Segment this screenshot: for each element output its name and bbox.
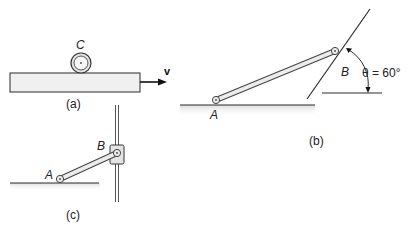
wheel-c: [71, 53, 91, 73]
figure-a: C v (a): [10, 38, 171, 111]
point-b-label: B: [97, 139, 105, 153]
ground-shadow: [10, 183, 100, 191]
caption-a: (a): [66, 97, 81, 111]
velocity-arrow: [140, 79, 167, 86]
angle-label: θ = 60°: [362, 66, 401, 80]
point-a-label: A: [209, 108, 218, 122]
point-b-label: B: [341, 65, 349, 79]
caption-b: (b): [309, 134, 324, 148]
link-ab: [212, 47, 338, 103]
incline-wall: [307, 9, 370, 99]
link-ab: [56, 149, 120, 182]
point-a-label: A: [44, 168, 53, 182]
ground-shadow: [180, 105, 315, 117]
figure-b: B θ = 60° A (b): [180, 9, 401, 148]
caption-c: (c): [66, 208, 80, 222]
velocity-label: v: [164, 65, 171, 77]
sliding-plate: [10, 73, 140, 92]
diagram-canvas: C v (a) B θ: [0, 0, 408, 236]
wheel-c-label: C: [76, 38, 85, 52]
figure-c: B A (c): [10, 105, 124, 222]
